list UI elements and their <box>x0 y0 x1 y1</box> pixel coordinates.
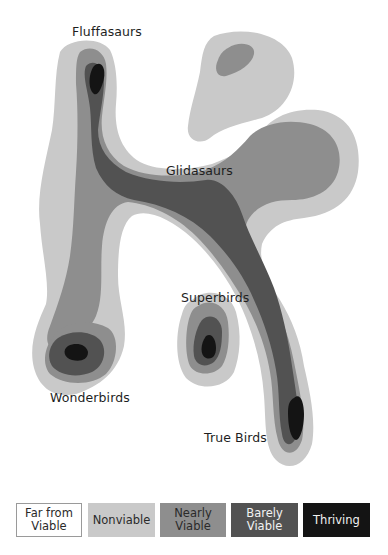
region-label-wonderbirds: Wonderbirds <box>50 390 130 405</box>
legend-far-from-viable: Far from Viable <box>16 503 82 537</box>
region-label-glidasaurs: Glidasaurs <box>166 163 233 178</box>
region-label-true-birds: True Birds <box>204 430 267 445</box>
legend-nearly-viable: Nearly Viable <box>160 503 226 537</box>
legend-thriving: Thriving <box>303 503 370 537</box>
legend-nonviable: Nonviable <box>88 503 155 537</box>
legend-label: Nonviable <box>93 514 151 527</box>
legend-label: Barely Viable <box>246 507 283 533</box>
legend-label: Thriving <box>313 514 360 527</box>
legend: Far from Viable Nonviable Nearly Viable … <box>16 503 372 538</box>
region-label-superbirds: Superbirds <box>181 290 249 305</box>
legend-label: Far from Viable <box>25 507 73 533</box>
legend-barely-viable: Barely Viable <box>231 503 298 537</box>
legend-label: Nearly Viable <box>174 507 211 533</box>
region-label-fluffasaurs: Fluffasaurs <box>72 24 142 39</box>
fitness-landscape-map <box>0 0 388 500</box>
